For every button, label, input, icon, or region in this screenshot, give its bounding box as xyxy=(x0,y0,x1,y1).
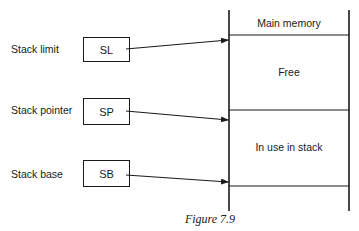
sp-register-text: SP xyxy=(99,106,114,118)
free-region-label: Free xyxy=(229,66,349,78)
main-memory-title: Main memory xyxy=(229,17,349,29)
sl-register-box: SL xyxy=(83,37,130,62)
sb-register-text: SB xyxy=(99,168,114,180)
figure-caption: Figure 7.9 xyxy=(160,212,260,227)
arrow-sb xyxy=(126,175,228,182)
sl-register-text: SL xyxy=(100,44,113,56)
in-use-region-label: In use in stack xyxy=(229,141,349,153)
arrow-sl xyxy=(126,40,228,49)
stack-base-label: Stack base xyxy=(11,168,63,180)
stack-pointer-label: Stack pointer xyxy=(11,104,72,116)
stack-limit-label: Stack limit xyxy=(11,43,59,55)
sp-register-box: SP xyxy=(83,98,130,125)
arrow-sp xyxy=(126,111,228,120)
sb-register-box: SB xyxy=(83,160,130,187)
